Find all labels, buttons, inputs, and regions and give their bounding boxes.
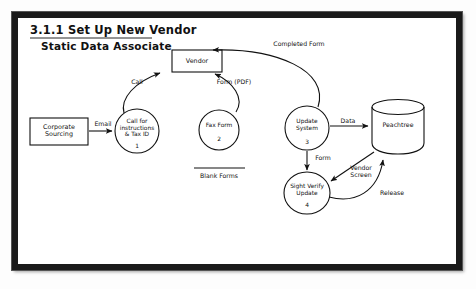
entity-vendor: Vendor (186, 58, 208, 65)
process-1-label: Call for instructions & Tax ID (120, 118, 155, 138)
process-4-label: Sight Verify Update (290, 183, 324, 196)
diagram-screenshot: 3.1.1 Set Up New Vendor Static Data Asso… (0, 0, 476, 289)
process-2-number: 2 (217, 136, 221, 143)
flow-label-form-pdf: Form (PDF) (217, 79, 251, 86)
diagram-subtitle: Static Data Associate (41, 41, 172, 52)
flow-label-vendor-screen: Vendor Screen (350, 165, 372, 178)
flow-label-form: Form (315, 155, 331, 162)
flow-label-release: Release (380, 190, 404, 197)
process-3-number: 3 (305, 139, 309, 146)
process-3-label: Update System (296, 118, 318, 131)
entity-corporate-sourcing: Corporate Sourcing (43, 124, 75, 137)
flow-label-email: Email (94, 121, 111, 128)
flow-label-call: Call (131, 79, 143, 86)
process-1-number: 1 (135, 143, 139, 150)
datastore-peachtree-label: Peachtree (383, 122, 414, 129)
process-2-circle (199, 110, 239, 150)
process-2-label: Fax Form (206, 122, 233, 129)
process-4-number: 4 (305, 202, 309, 209)
diagram-title: 3.1.1 Set Up New Vendor (30, 24, 197, 36)
flow-label-completed-form: Completed Form (273, 41, 324, 48)
datastore-blank-forms-label: Blank Forms (200, 173, 238, 180)
flow-label-data: Data (341, 118, 356, 125)
